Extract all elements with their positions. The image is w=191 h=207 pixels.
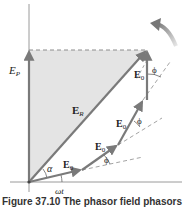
e0-label-2: E0 — [95, 141, 106, 154]
omega-t-arc — [61, 175, 62, 182]
ep-label: EP — [8, 64, 21, 78]
figure-caption: Figure 37.10 The phasor field phasors — [2, 196, 182, 207]
rotation-arrowhead-icon — [150, 18, 161, 31]
alpha-label: α — [47, 163, 53, 174]
phi-label-1: ϕ — [104, 155, 109, 165]
phi-label-2: ϕ — [137, 116, 142, 126]
e0-label-1: E0 — [63, 159, 74, 172]
e0-label-3: E0 — [116, 118, 127, 131]
origin-point — [27, 180, 30, 183]
omega-t-label: ωt — [55, 186, 64, 196]
e0-label-4: E0 — [134, 69, 145, 82]
phasor-diagram: EP ER E0 E0 E0 E0 α ωt ϕ ϕ ϕ — [0, 0, 191, 207]
phi-label-3: ϕ — [152, 65, 157, 75]
